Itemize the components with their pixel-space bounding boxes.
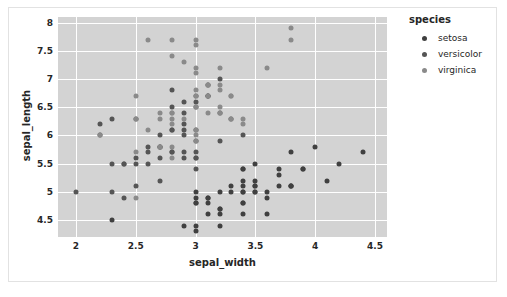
x-tick-label: 2.5 — [128, 241, 144, 251]
data-point-setosa — [265, 189, 270, 194]
data-point-versicolor — [169, 88, 174, 93]
legend-item-label: versicolor — [438, 49, 482, 59]
data-point-virginica — [133, 150, 138, 155]
data-point-versicolor — [121, 161, 126, 166]
y-tick-label: 6 — [47, 130, 53, 140]
data-point-virginica — [169, 37, 174, 42]
legend-item-virginica[interactable]: virginica — [409, 63, 489, 77]
data-point-virginica — [193, 43, 198, 48]
data-point-virginica — [289, 37, 294, 42]
data-point-virginica — [157, 116, 162, 121]
data-point-virginica — [133, 93, 138, 98]
data-point-versicolor — [181, 122, 186, 127]
data-point-virginica — [133, 195, 138, 200]
legend-entries: setosaversicolorvirginica — [409, 31, 489, 77]
data-point-setosa — [265, 212, 270, 217]
data-point-setosa — [217, 223, 222, 228]
gridline-horizontal — [58, 220, 387, 221]
data-point-versicolor — [181, 110, 186, 115]
data-point-virginica — [181, 116, 186, 121]
y-tick-label: 5.5 — [37, 159, 53, 169]
data-point-versicolor — [157, 133, 162, 138]
legend-marker-icon — [422, 52, 427, 57]
data-point-setosa — [241, 189, 246, 194]
legend-item-versicolor[interactable]: versicolor — [409, 47, 489, 61]
data-point-virginica — [169, 54, 174, 59]
gridline-horizontal — [58, 192, 387, 193]
data-point-virginica — [205, 93, 210, 98]
data-point-versicolor — [193, 99, 198, 104]
x-tick-label: 3 — [192, 241, 198, 251]
data-point-setosa — [277, 167, 282, 172]
data-point-setosa — [313, 144, 318, 149]
data-point-virginica — [169, 156, 174, 161]
data-point-setosa — [193, 189, 198, 194]
data-point-setosa — [193, 229, 198, 234]
data-point-virginica — [145, 127, 150, 132]
data-point-versicolor — [133, 156, 138, 161]
data-point-versicolor — [169, 105, 174, 110]
data-point-setosa — [241, 178, 246, 183]
data-point-setosa — [193, 201, 198, 206]
gridline-horizontal — [58, 23, 387, 24]
data-point-versicolor — [157, 178, 162, 183]
data-point-setosa — [205, 212, 210, 217]
data-point-virginica — [169, 116, 174, 121]
data-point-setosa — [217, 189, 222, 194]
data-point-setosa — [253, 178, 258, 183]
data-point-versicolor — [181, 156, 186, 161]
data-point-virginica — [133, 116, 138, 121]
data-point-versicolor — [97, 122, 102, 127]
data-point-virginica — [193, 37, 198, 42]
data-point-virginica — [193, 71, 198, 76]
data-point-setosa — [289, 150, 294, 155]
data-point-setosa — [253, 184, 258, 189]
scatter-plot-figure: 4.555.566.577.58 22.533.544.5 sepal_widt… — [0, 0, 507, 297]
data-point-versicolor — [181, 133, 186, 138]
data-point-virginica — [145, 37, 150, 42]
gridline-horizontal — [58, 79, 387, 80]
gridline-horizontal — [58, 51, 387, 52]
data-point-versicolor — [109, 189, 114, 194]
data-point-virginica — [157, 110, 162, 115]
legend-item-label: virginica — [438, 65, 476, 75]
data-point-virginica — [157, 144, 162, 149]
data-point-setosa — [205, 201, 210, 206]
y-axis-title: sepal_length — [21, 16, 32, 236]
gridline-vertical — [315, 17, 316, 237]
data-point-setosa — [289, 184, 294, 189]
data-point-setosa — [241, 184, 246, 189]
gridline-horizontal — [58, 135, 387, 136]
x-axis-tick-labels: 22.533.544.5 — [58, 241, 387, 255]
data-point-virginica — [193, 93, 198, 98]
data-point-versicolor — [169, 127, 174, 132]
legend-item-setosa[interactable]: setosa — [409, 31, 489, 45]
data-point-setosa — [205, 195, 210, 200]
data-point-virginica — [193, 139, 198, 144]
x-tick-label: 4 — [312, 241, 318, 251]
data-point-versicolor — [193, 150, 198, 155]
data-point-setosa — [193, 223, 198, 228]
data-point-virginica — [229, 93, 234, 98]
y-tick-label: 7 — [47, 74, 53, 84]
data-point-virginica — [241, 116, 246, 121]
y-tick-label: 7.5 — [37, 46, 53, 56]
data-point-virginica — [289, 26, 294, 31]
data-point-versicolor — [145, 144, 150, 149]
data-point-versicolor — [241, 133, 246, 138]
data-point-virginica — [205, 82, 210, 87]
data-point-virginica — [217, 65, 222, 70]
data-point-setosa — [109, 218, 114, 223]
gridline-horizontal — [58, 107, 387, 108]
data-point-virginica — [193, 127, 198, 132]
data-point-versicolor — [217, 139, 222, 144]
data-point-setosa — [193, 195, 198, 200]
gridline-vertical — [136, 17, 137, 237]
data-point-virginica — [217, 105, 222, 110]
data-point-virginica — [97, 133, 102, 138]
data-point-versicolor — [169, 150, 174, 155]
data-point-setosa — [265, 195, 270, 200]
data-point-versicolor — [145, 150, 150, 155]
data-point-setosa — [301, 167, 306, 172]
data-point-setosa — [277, 172, 282, 177]
